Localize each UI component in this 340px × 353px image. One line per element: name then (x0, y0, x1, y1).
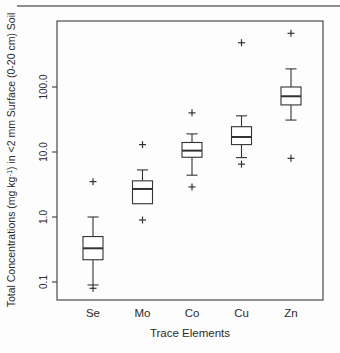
x-category-label: Cu (234, 307, 249, 319)
x-category-label: Co (185, 307, 200, 319)
x-axis-title: Trace Elements (57, 327, 323, 339)
y-axis-title: Total Concentrations (mg kg-1) in <2 mm … (3, 10, 17, 310)
x-category-label: Se (86, 307, 100, 319)
y-axis-title-superscript: -1 (5, 170, 14, 177)
figure-page: 0.11.010.0100.0SeMoCoCuZn Total Concentr… (0, 0, 340, 353)
y-tick-label: 10.0 (38, 142, 49, 162)
y-tick-label: 0.1 (38, 275, 49, 289)
y-axis-title-suffix: ) in <2 mm Surface (0-20 cm) Soil (5, 13, 17, 170)
box-mo (133, 181, 153, 204)
x-category-label: Mo (135, 307, 151, 319)
x-category-label: Zn (284, 307, 297, 319)
y-tick-label: 100.0 (38, 74, 49, 99)
boxplot-chart: 0.11.010.0100.0SeMoCoCuZn (0, 0, 340, 353)
box-cu (232, 127, 252, 145)
y-axis-title-text: Total Concentrations (mg kg (5, 177, 17, 308)
y-tick-label: 1.0 (38, 210, 49, 224)
